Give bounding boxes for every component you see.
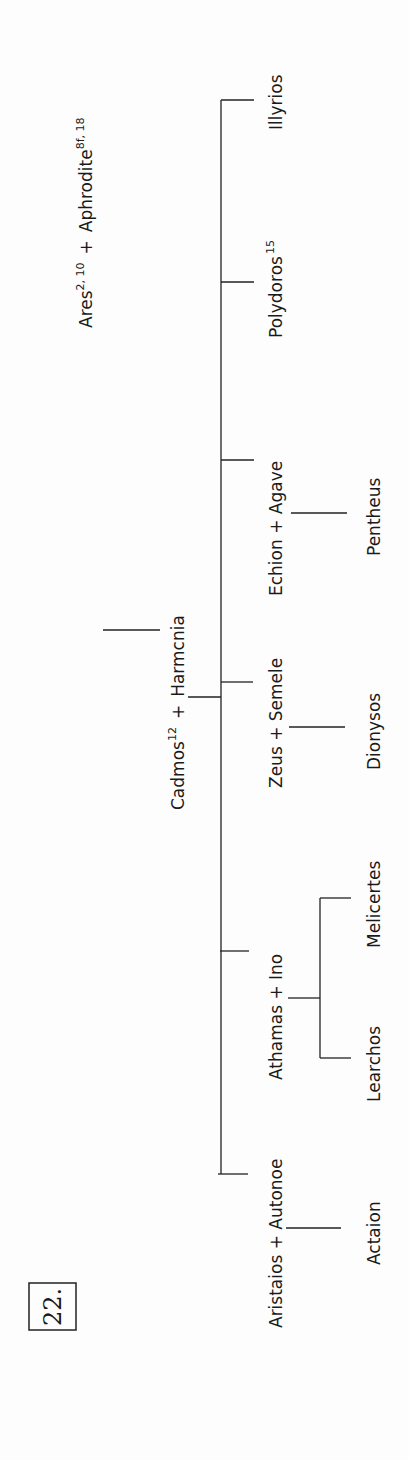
grandchild-melicertes: Melicertes (364, 861, 384, 948)
root-name-ares: Ares (76, 290, 96, 328)
cadmos-plus: + (168, 705, 188, 719)
figure-number: 22. (39, 1288, 67, 1326)
child-illyrios: Illyrios (266, 74, 286, 130)
cadmos-name: Cadmos (168, 741, 188, 810)
harmcnia-name: Harmcnia (168, 615, 188, 697)
child-zeus-semele: Zeus + Semele (266, 658, 286, 788)
root-sup-ares: 2, 10 (74, 262, 87, 290)
polydoros-name: Polydoros (266, 256, 286, 338)
cadmos-sup: 12 (166, 727, 179, 741)
grandchild-actaion: Actaion (364, 1201, 384, 1265)
root-plus: + (76, 240, 96, 254)
child-aristaios-autonoe: Aristaios + Autonoe (266, 1159, 286, 1328)
root-couple-label: Ares2, 10+Aphrodite8f, 18 (74, 117, 96, 328)
cadmos-couple-label: Cadmos12+Harmcnia (166, 615, 188, 810)
root-sup-aphrodite: 8f, 18 (74, 117, 87, 149)
polydoros-sup: 15 (264, 240, 277, 254)
child-echion-agave: Echion + Agave (266, 461, 286, 596)
grandchild-learchos: Learchos (364, 1026, 384, 1102)
grandchild-dionysos: Dionysos (364, 693, 384, 770)
grandchild-pentheus: Pentheus (364, 477, 384, 556)
genealogy-diagram: 22. Ares2, 10+Aphrodite8f, 18 Cadmos12+H… (0, 0, 409, 1460)
root-name-aphrodite: Aphrodite (76, 149, 96, 232)
child-polydoros: Polydoros15 (264, 240, 286, 338)
child-athamas-ino: Athamas + Ino (266, 954, 286, 1080)
